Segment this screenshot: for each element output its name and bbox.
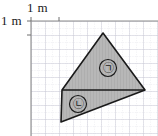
- scale-label-horizontal: 1 m: [27, 1, 48, 14]
- region-a-label: ㉠: [103, 62, 114, 74]
- region-b-label: ㉡: [73, 98, 84, 110]
- geometry-figure: ㉠ ㉡ 1 m 1 m: [0, 0, 158, 136]
- figure-canvas: ㉠ ㉡: [0, 0, 158, 136]
- scale-label-vertical: 1 m: [1, 14, 22, 27]
